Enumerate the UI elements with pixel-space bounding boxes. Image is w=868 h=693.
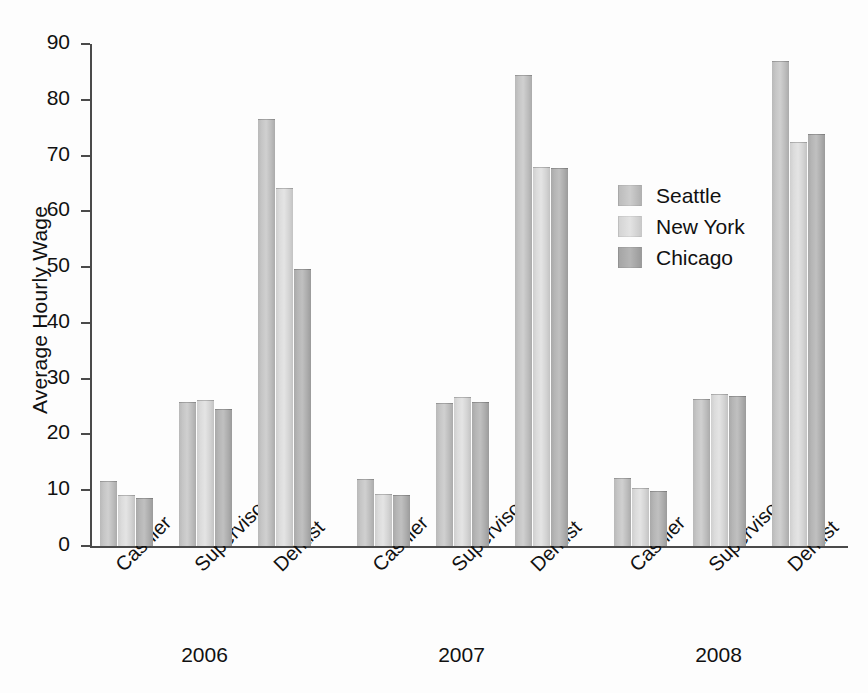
y-tick-label-10: 10	[26, 476, 70, 500]
bar-2006-supervisor-new-york	[197, 400, 214, 546]
legend-label-seattle: Seattle	[656, 184, 721, 208]
y-tick-label-20: 20	[26, 420, 70, 444]
bar-2007-supervisor-new-york	[454, 397, 471, 546]
bar-2008-dentist-new-york	[790, 142, 807, 546]
y-tick-label-0: 0	[26, 532, 70, 556]
year-label-2006: 2006	[145, 643, 265, 667]
bar-2008-cashier-chicago	[650, 491, 667, 546]
legend-swatch-new-york	[618, 216, 642, 237]
bar-2006-cashier-seattle	[100, 481, 117, 546]
y-tick-80	[81, 99, 90, 101]
y-tick-70	[81, 155, 90, 157]
y-tick-label-50: 50	[26, 253, 70, 277]
y-tick-50	[81, 266, 90, 268]
y-tick-label-40: 40	[26, 309, 70, 333]
legend-label-new-york: New York	[656, 215, 745, 239]
chart-legend: Seattle New York Chicago	[618, 180, 745, 273]
bar-2006-dentist-chicago	[294, 269, 311, 546]
y-tick-10	[81, 489, 90, 491]
y-tick-label-30: 30	[26, 365, 70, 389]
y-tick-label-90: 90	[26, 30, 70, 54]
bar-2006-cashier-chicago	[136, 498, 153, 546]
bar-2007-dentist-chicago	[551, 168, 568, 546]
y-tick-label-70: 70	[26, 142, 70, 166]
year-label-2007: 2007	[402, 643, 522, 667]
plot-area	[92, 44, 848, 546]
legend-item-new-york: New York	[618, 211, 745, 242]
chart-figure: Average Hourly Wage 0102030405060708090 …	[0, 0, 868, 693]
bar-2006-dentist-seattle	[258, 119, 275, 546]
legend-item-chicago: Chicago	[618, 242, 745, 273]
legend-label-chicago: Chicago	[656, 246, 733, 270]
bar-2006-cashier-new-york	[118, 495, 135, 546]
bar-2007-supervisor-chicago	[472, 402, 489, 546]
bar-2006-supervisor-chicago	[215, 409, 232, 546]
y-tick-40	[81, 322, 90, 324]
bar-2008-dentist-chicago	[808, 134, 825, 546]
bar-2007-supervisor-seattle	[436, 403, 453, 546]
bar-2006-supervisor-seattle	[179, 402, 196, 546]
y-tick-60	[81, 210, 90, 212]
y-tick-90	[81, 43, 90, 45]
bar-2007-cashier-new-york	[375, 494, 392, 546]
y-tick-0	[81, 545, 90, 547]
y-tick-20	[81, 433, 90, 435]
bar-2008-cashier-new-york	[632, 488, 649, 546]
bar-2007-dentist-new-york	[533, 167, 550, 546]
bar-2006-dentist-new-york	[276, 188, 293, 546]
y-axis-title: Average Hourly Wage	[6, 0, 30, 150]
y-tick-30	[81, 378, 90, 380]
bar-2007-cashier-seattle	[357, 479, 374, 546]
bar-2007-dentist-seattle	[515, 75, 532, 546]
bar-2008-cashier-seattle	[614, 478, 631, 546]
legend-swatch-chicago	[618, 247, 642, 268]
bar-2008-supervisor-chicago	[729, 396, 746, 546]
bar-2007-cashier-chicago	[393, 495, 410, 546]
y-tick-label-60: 60	[26, 197, 70, 221]
legend-item-seattle: Seattle	[618, 180, 745, 211]
y-tick-label-80: 80	[26, 86, 70, 110]
year-label-2008: 2008	[659, 643, 779, 667]
bar-2008-supervisor-seattle	[693, 399, 710, 546]
legend-swatch-seattle	[618, 185, 642, 206]
bar-2008-supervisor-new-york	[711, 394, 728, 546]
bar-2008-dentist-seattle	[772, 61, 789, 546]
